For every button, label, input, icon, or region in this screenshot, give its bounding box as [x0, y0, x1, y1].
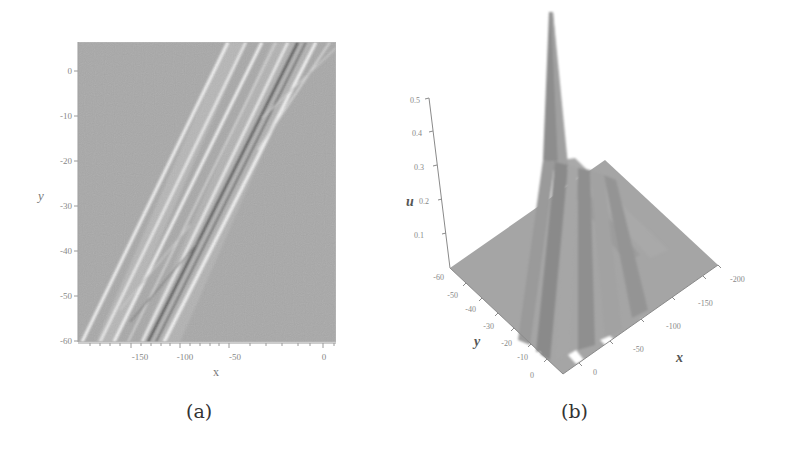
y-tick-label: 0 — [68, 66, 73, 76]
y-tick-label: -20 — [60, 156, 72, 166]
y-axis-label-3d: y — [472, 334, 481, 349]
u-tick-label: 0.1 — [414, 231, 424, 240]
u-axis-label: u — [406, 194, 414, 209]
y-axis-label: y — [36, 188, 44, 203]
y-tick-label: -10 — [60, 111, 72, 121]
y-tick-labels: 0 -10 -20 -30 -40 -50 -60 — [60, 66, 73, 346]
caption-a: (a) — [186, 400, 212, 422]
density-plot: 0 -10 -20 -30 -40 -50 -60 y — [0, 0, 400, 449]
x-tick-label: -100 — [666, 322, 681, 331]
x-tick-label: -100 — [177, 352, 194, 362]
y-tick-label: -40 — [465, 305, 476, 314]
x-tick-label: 0 — [593, 368, 597, 377]
y-tick-label: 0 — [530, 371, 534, 380]
u-tick-label: 0.2 — [419, 197, 429, 206]
surface-ridges — [518, 12, 668, 374]
y-tick-label: -40 — [60, 246, 72, 256]
y-tick-label: -60 — [60, 336, 72, 346]
x-tick-label: 0 — [322, 352, 327, 362]
u-tick-label: 0.4 — [412, 129, 422, 138]
x-axis-label: x — [213, 365, 219, 379]
x-tick-labels: -150 -100 -50 0 — [132, 352, 327, 362]
y-tick-label: -50 — [447, 291, 458, 300]
y-axis — [74, 42, 78, 342]
y-tick-label: -50 — [60, 291, 72, 301]
u-tick-label: 0.5 — [410, 96, 420, 105]
x-tick-label: -50 — [229, 352, 241, 362]
x-tick-label: -200 — [730, 275, 745, 284]
surface-plot-panel: 0.1 0.2 0.3 0.4 0.5 u -60 -50 -40 -30 -2… — [400, 0, 795, 449]
x-axis-label-3d: x — [675, 350, 683, 365]
y-tick-label: -10 — [517, 353, 528, 362]
u-axis — [425, 98, 450, 268]
x-tick-label: -150 — [698, 299, 713, 308]
x-axis — [78, 343, 336, 348]
y-tick-label: -30 — [60, 201, 72, 211]
y-tick-label: -30 — [483, 322, 494, 331]
density-plot-panel: 0 -10 -20 -30 -40 -50 -60 y — [0, 0, 400, 449]
caption-b: (b) — [561, 400, 588, 422]
x-tick-label: -50 — [633, 345, 644, 354]
y-tick-label: -20 — [501, 339, 512, 348]
x-tick-label: -150 — [132, 352, 149, 362]
surface-plot: 0.1 0.2 0.3 0.4 0.5 u -60 -50 -40 -30 -2… — [400, 0, 795, 449]
y-tick-label: -60 — [433, 273, 444, 282]
u-tick-label: 0.3 — [414, 163, 424, 172]
u-tick-labels: 0.1 0.2 0.3 0.4 0.5 — [410, 96, 429, 240]
